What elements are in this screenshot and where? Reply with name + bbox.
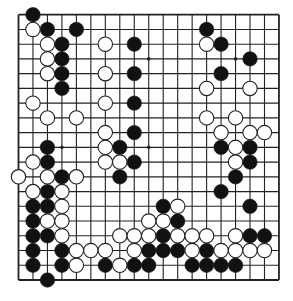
black-stone[interactable]	[55, 37, 69, 51]
black-stone[interactable]	[243, 199, 257, 213]
black-stone[interactable]	[142, 258, 156, 272]
white-stone[interactable]	[199, 111, 213, 125]
black-stone[interactable]	[55, 66, 69, 80]
black-stone[interactable]	[214, 184, 228, 198]
white-stone[interactable]	[11, 170, 25, 184]
black-stone[interactable]	[40, 22, 54, 36]
white-stone[interactable]	[214, 125, 228, 139]
black-stone[interactable]	[243, 140, 257, 154]
black-stone[interactable]	[228, 258, 242, 272]
black-stone[interactable]	[40, 140, 54, 154]
black-stone[interactable]	[26, 229, 40, 243]
black-stone[interactable]	[243, 52, 257, 66]
black-stone[interactable]	[127, 155, 141, 169]
black-stone[interactable]	[142, 243, 156, 257]
black-stone[interactable]	[69, 22, 83, 36]
white-stone[interactable]	[113, 155, 127, 169]
black-stone[interactable]	[127, 66, 141, 80]
white-stone[interactable]	[40, 52, 54, 66]
white-stone[interactable]	[98, 37, 112, 51]
white-stone[interactable]	[257, 125, 271, 139]
white-stone[interactable]	[55, 184, 69, 198]
black-stone[interactable]	[55, 81, 69, 95]
white-stone[interactable]	[98, 155, 112, 169]
black-stone[interactable]	[243, 229, 257, 243]
white-stone[interactable]	[98, 66, 112, 80]
black-stone[interactable]	[55, 243, 69, 257]
black-stone[interactable]	[26, 258, 40, 272]
white-stone[interactable]	[199, 37, 213, 51]
white-stone[interactable]	[55, 229, 69, 243]
black-stone[interactable]	[26, 243, 40, 257]
black-stone[interactable]	[40, 184, 54, 198]
white-stone[interactable]	[228, 155, 242, 169]
black-stone[interactable]	[98, 258, 112, 272]
white-stone[interactable]	[40, 66, 54, 80]
white-stone[interactable]	[113, 229, 127, 243]
black-stone[interactable]	[127, 37, 141, 51]
white-stone[interactable]	[243, 81, 257, 95]
black-stone[interactable]	[214, 37, 228, 51]
black-stone[interactable]	[243, 155, 257, 169]
white-stone[interactable]	[55, 199, 69, 213]
black-stone[interactable]	[214, 258, 228, 272]
black-stone[interactable]	[170, 214, 184, 228]
white-stone[interactable]	[40, 214, 54, 228]
white-stone[interactable]	[40, 170, 54, 184]
black-stone[interactable]	[127, 258, 141, 272]
black-stone[interactable]	[127, 125, 141, 139]
white-stone[interactable]	[84, 243, 98, 257]
white-stone[interactable]	[228, 229, 242, 243]
white-stone[interactable]	[26, 184, 40, 198]
white-stone[interactable]	[199, 229, 213, 243]
black-stone[interactable]	[199, 22, 213, 36]
white-stone[interactable]	[26, 155, 40, 169]
white-stone[interactable]	[243, 125, 257, 139]
white-stone[interactable]	[98, 125, 112, 139]
white-stone[interactable]	[228, 140, 242, 154]
black-stone[interactable]	[156, 243, 170, 257]
white-stone[interactable]	[142, 229, 156, 243]
white-stone[interactable]	[26, 22, 40, 36]
black-stone[interactable]	[228, 170, 242, 184]
black-stone[interactable]	[55, 258, 69, 272]
white-stone[interactable]	[257, 243, 271, 257]
black-stone[interactable]	[113, 140, 127, 154]
white-stone[interactable]	[113, 258, 127, 272]
white-stone[interactable]	[127, 229, 141, 243]
black-stone[interactable]	[185, 258, 199, 272]
white-stone[interactable]	[40, 111, 54, 125]
go-board[interactable]	[0, 0, 293, 301]
white-stone[interactable]	[69, 170, 83, 184]
black-stone[interactable]	[127, 96, 141, 110]
white-stone[interactable]	[142, 214, 156, 228]
black-stone[interactable]	[214, 66, 228, 80]
black-stone[interactable]	[214, 140, 228, 154]
black-stone[interactable]	[199, 258, 213, 272]
white-stone[interactable]	[156, 214, 170, 228]
white-stone[interactable]	[98, 96, 112, 110]
white-stone[interactable]	[98, 140, 112, 154]
black-stone[interactable]	[156, 229, 170, 243]
white-stone[interactable]	[199, 81, 213, 95]
white-stone[interactable]	[170, 229, 184, 243]
black-stone[interactable]	[40, 199, 54, 213]
white-stone[interactable]	[55, 214, 69, 228]
white-stone[interactable]	[26, 96, 40, 110]
white-stone[interactable]	[40, 37, 54, 51]
go-board-grid[interactable]	[0, 0, 293, 301]
black-stone[interactable]	[170, 243, 184, 257]
white-stone[interactable]	[214, 243, 228, 257]
black-stone[interactable]	[55, 52, 69, 66]
black-stone[interactable]	[257, 229, 271, 243]
black-stone[interactable]	[199, 243, 213, 257]
black-stone[interactable]	[156, 199, 170, 213]
white-stone[interactable]	[69, 243, 83, 257]
white-stone[interactable]	[69, 258, 83, 272]
black-stone[interactable]	[113, 170, 127, 184]
white-stone[interactable]	[228, 243, 242, 257]
black-stone[interactable]	[26, 8, 40, 22]
black-stone[interactable]	[40, 273, 54, 287]
white-stone[interactable]	[98, 243, 112, 257]
black-stone[interactable]	[26, 199, 40, 213]
